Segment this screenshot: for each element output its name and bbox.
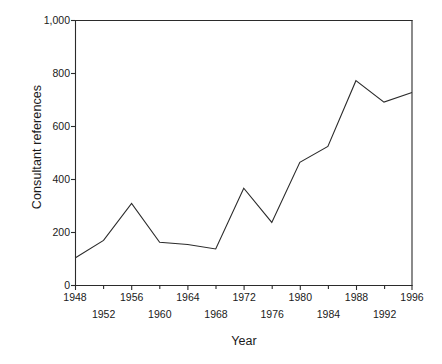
data-series-line [76,81,413,258]
x-tick-label-1992: 1992 [363,309,407,320]
x-tick-label-1956: 1956 [110,292,154,303]
x-axis-title: Year [75,334,413,348]
chart-figure: Consultant references 1,000 800 600 400 … [0,0,442,364]
y-tick-marks [71,21,75,286]
x-tick-label-1996: 1996 [390,292,434,303]
x-tick-label-1972: 1972 [222,292,266,303]
x-tick-label-1980: 1980 [278,292,322,303]
x-tick-label-1968: 1968 [194,309,238,320]
x-tick-label-1988: 1988 [335,292,379,303]
x-tick-label-1976: 1976 [250,309,294,320]
x-tick-label-1952: 1952 [82,309,126,320]
x-tick-label-1960: 1960 [138,309,182,320]
x-tick-label-1948: 1948 [53,292,97,303]
x-tick-label-1964: 1964 [166,292,210,303]
x-tick-label-1984: 1984 [306,309,350,320]
